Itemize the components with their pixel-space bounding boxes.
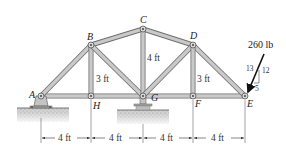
node-label-e: E [246, 98, 253, 109]
slope-horiz-label: 5 [255, 84, 259, 93]
ground-a [17, 108, 69, 124]
span-label-1: 4 ft [58, 133, 71, 143]
node-label-g: G [151, 92, 158, 103]
height-label-bh: 3 ft [96, 74, 109, 84]
node-label-a: A [28, 89, 36, 100]
node-label-h: H [92, 100, 101, 111]
truss-members [41, 29, 245, 96]
ground-g [117, 110, 169, 126]
slope-vert-label: 12 [262, 66, 270, 75]
node-label-d: D [189, 30, 198, 41]
height-label-df: 3 ft [197, 74, 210, 84]
truss-diagram: A H G F E B C D 3 ft 4 ft 3 ft 4 ft 4 ft… [0, 0, 286, 161]
span-label-4: 4 ft [211, 133, 224, 143]
slope-hyp-label: 13 [246, 64, 254, 73]
node-label-f: F [194, 98, 202, 109]
height-label-cg: 4 ft [147, 53, 160, 63]
node-label-b: B [87, 31, 93, 42]
span-label-3: 4 ft [160, 133, 173, 143]
span-label-2: 4 ft [109, 133, 122, 143]
node-label-c: C [140, 14, 147, 25]
load-magnitude: 260 lb [248, 39, 273, 50]
